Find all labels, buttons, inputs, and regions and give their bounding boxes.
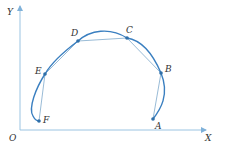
label-f: F <box>43 116 49 125</box>
chord-polyline <box>39 38 161 121</box>
curve-path <box>31 31 164 121</box>
point-f <box>37 119 41 123</box>
label-e: E <box>35 67 42 76</box>
origin-label: O <box>9 134 16 143</box>
label-c: C <box>126 26 133 35</box>
x-axis-label: X <box>205 134 211 143</box>
label-d: D <box>71 29 78 38</box>
point-b <box>159 71 163 75</box>
point-d <box>76 39 80 43</box>
y-axis-label: Y <box>7 8 13 17</box>
diagram-canvas: Y X O A B C D E F <box>0 0 226 151</box>
point-c <box>125 36 129 40</box>
curve-diagram <box>0 0 226 151</box>
point-e <box>43 72 47 76</box>
label-a: A <box>155 122 162 131</box>
label-b: B <box>165 65 172 74</box>
